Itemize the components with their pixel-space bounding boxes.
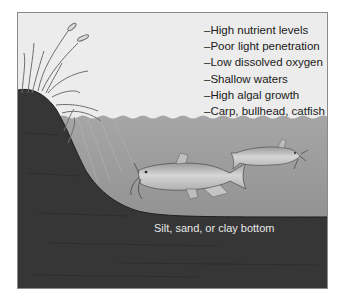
trait-item: –Carp, bullhead, catfish [204, 103, 325, 119]
trait-item: –Shallow waters [204, 71, 325, 87]
trait-item: –High algal growth [204, 87, 325, 103]
trait-item: –Low dissolved oxygen [204, 54, 325, 70]
trait-item: –Poor light penetration [204, 38, 325, 54]
bottom-substrate-label: Silt, sand, or clay bottom [154, 222, 274, 234]
trait-item: –High nutrient levels [204, 22, 325, 38]
lake-characteristics-list: –High nutrient levels –Poor light penetr… [204, 22, 325, 119]
illustration-frame: –High nutrient levels –Poor light penetr… [17, 12, 328, 289]
